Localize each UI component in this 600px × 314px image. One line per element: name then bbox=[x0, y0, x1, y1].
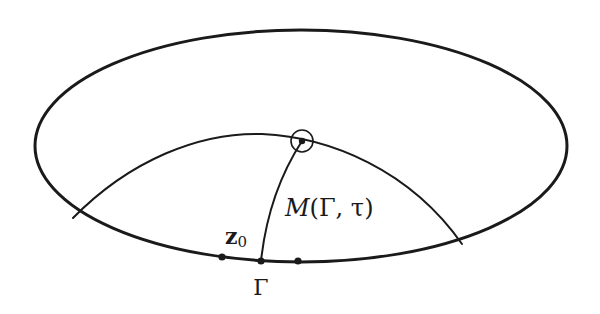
surface-outline bbox=[35, 30, 567, 262]
label-manifold: M(Γ, τ) bbox=[284, 194, 374, 222]
boundary-point-right bbox=[294, 257, 301, 264]
label-manifold-args: (Γ, τ) bbox=[310, 194, 374, 222]
label-manifold-script: M bbox=[284, 194, 311, 222]
label-z0: z0 bbox=[225, 223, 247, 251]
circled-point bbox=[299, 138, 305, 144]
label-gamma: Γ bbox=[253, 275, 268, 300]
label-z0-sub: 0 bbox=[238, 233, 248, 251]
boundary-point-z0 bbox=[218, 253, 225, 260]
boundary-point-gamma bbox=[257, 257, 264, 264]
arc-curve bbox=[73, 134, 462, 244]
label-z0-base: z bbox=[225, 223, 238, 249]
surface-diagram: z0 Γ M(Γ, τ) bbox=[0, 0, 600, 314]
